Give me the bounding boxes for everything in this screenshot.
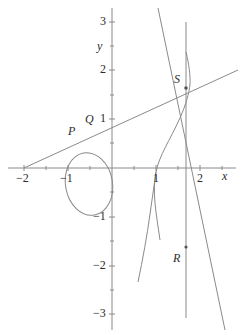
y-tick-label-2: 2 (100, 63, 106, 75)
y-tick-label-3: 3 (100, 15, 106, 27)
point-marker-R (184, 245, 187, 248)
plot-canvas (0, 0, 243, 335)
parabola-curve (154, 52, 190, 240)
point-label-P: P (68, 125, 75, 137)
steep-line (158, 8, 225, 330)
y-tick-label-neg1: −1 (93, 210, 106, 222)
point-label-Q: Q (85, 113, 94, 125)
math-figure: −2 −1 1 2 3 2 1 −1 −2 −3 x y P Q S R (0, 0, 243, 335)
tangent-line (24, 70, 238, 168)
x-tick-label-1: 1 (153, 172, 159, 184)
y-axis-label: y (97, 40, 102, 52)
point-label-S: S (174, 73, 180, 85)
x-tick-label-neg2: −2 (16, 172, 29, 184)
parabola-curve-lower (138, 172, 156, 282)
y-tick-label-1: 1 (100, 112, 106, 124)
y-tick-label-neg3: −3 (93, 307, 106, 319)
y-tick-label-neg2: −2 (93, 259, 106, 271)
x-axis-label: x (222, 170, 227, 182)
point-marker-S (184, 86, 188, 90)
point-label-R: R (173, 252, 180, 264)
x-tick-label-2: 2 (197, 172, 203, 184)
x-tick-label-neg1: −1 (60, 172, 73, 184)
